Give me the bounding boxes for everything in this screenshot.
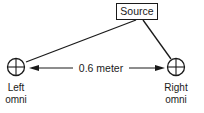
source-box: Source <box>116 3 158 20</box>
right-mic-label-line1: Right <box>161 82 191 94</box>
right-omni-mic-icon <box>168 59 185 76</box>
distance-label: 0.6 meter <box>73 62 129 74</box>
left-mic-label-line1: Left <box>2 82 30 94</box>
path-source-to-right <box>143 20 171 59</box>
left-mic-label: Left omni <box>2 82 30 106</box>
source-label: Source <box>120 5 153 17</box>
right-mic-label: Right omni <box>161 82 191 106</box>
left-mic-label-line2: omni <box>2 94 30 106</box>
path-source-to-left <box>26 20 136 62</box>
arrowhead-left-icon <box>29 65 39 71</box>
arrowhead-right-icon <box>155 65 165 71</box>
left-omni-mic-icon <box>8 59 25 76</box>
right-mic-label-line2: omni <box>161 94 191 106</box>
